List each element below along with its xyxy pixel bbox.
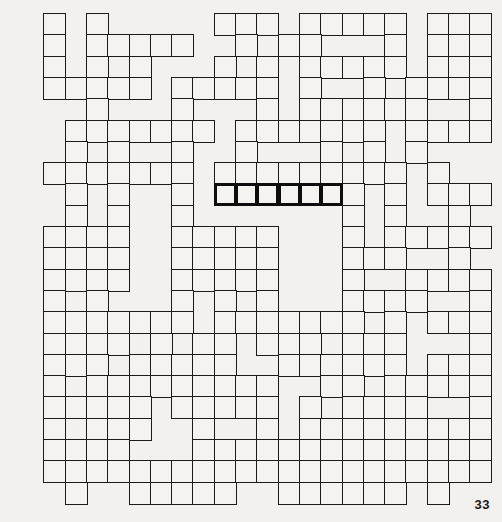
- grid-cell[interactable]: [448, 418, 471, 441]
- grid-cell[interactable]: [86, 162, 109, 185]
- grid-cell[interactable]: [171, 183, 194, 206]
- grid-cell-highlighted[interactable]: [256, 183, 279, 206]
- grid-cell[interactable]: [299, 354, 322, 377]
- grid-cell[interactable]: [86, 311, 109, 334]
- grid-cell[interactable]: [427, 120, 450, 143]
- grid-cell[interactable]: [299, 418, 322, 441]
- grid-cell[interactable]: [86, 226, 109, 249]
- grid-cell[interactable]: [256, 226, 279, 249]
- grid-cell[interactable]: [363, 418, 386, 441]
- grid-cell[interactable]: [171, 77, 194, 100]
- grid-cell[interactable]: [43, 396, 66, 419]
- grid-cell[interactable]: [256, 162, 279, 185]
- grid-cell[interactable]: [384, 460, 407, 483]
- grid-cell[interactable]: [86, 418, 109, 441]
- grid-cell[interactable]: [192, 269, 215, 292]
- grid-cell[interactable]: [342, 418, 365, 441]
- grid-cell[interactable]: [129, 375, 152, 398]
- grid-cell-highlighted[interactable]: [320, 183, 343, 206]
- grid-cell[interactable]: [65, 77, 88, 100]
- grid-cell[interactable]: [278, 162, 301, 185]
- grid-cell[interactable]: [256, 77, 279, 100]
- grid-cell[interactable]: [427, 162, 450, 185]
- grid-cell[interactable]: [469, 439, 492, 462]
- grid-cell[interactable]: [107, 375, 130, 398]
- grid-cell[interactable]: [278, 120, 301, 143]
- grid-cell[interactable]: [363, 354, 386, 377]
- grid-cell[interactable]: [214, 439, 237, 462]
- grid-cell[interactable]: [405, 396, 428, 419]
- grid-cell[interactable]: [192, 226, 215, 249]
- grid-cell[interactable]: [299, 439, 322, 462]
- grid-cell[interactable]: [256, 439, 279, 462]
- grid-cell[interactable]: [299, 120, 322, 143]
- grid-cell[interactable]: [469, 418, 492, 441]
- grid-cell[interactable]: [43, 162, 66, 185]
- grid-cell[interactable]: [299, 56, 322, 79]
- grid-cell[interactable]: [150, 333, 173, 356]
- grid-cell[interactable]: [171, 354, 194, 377]
- grid-cell[interactable]: [427, 354, 450, 377]
- grid-cell[interactable]: [86, 13, 109, 36]
- grid-cell[interactable]: [299, 13, 322, 36]
- grid-cell[interactable]: [107, 77, 130, 100]
- grid-cell[interactable]: [384, 34, 407, 57]
- grid-cell[interactable]: [384, 354, 407, 377]
- grid-cell-highlighted[interactable]: [235, 183, 258, 206]
- grid-cell[interactable]: [256, 418, 279, 441]
- grid-cell[interactable]: [384, 290, 407, 313]
- grid-cell[interactable]: [150, 460, 173, 483]
- grid-cell[interactable]: [342, 439, 365, 462]
- grid-cell[interactable]: [86, 375, 109, 398]
- grid-cell[interactable]: [448, 375, 471, 398]
- grid-cell[interactable]: [43, 333, 66, 356]
- grid-cell[interactable]: [171, 482, 194, 505]
- grid-cell[interactable]: [43, 269, 66, 292]
- grid-cell[interactable]: [448, 247, 471, 270]
- grid-cell[interactable]: [214, 311, 237, 334]
- grid-cell[interactable]: [192, 333, 215, 356]
- grid-cell[interactable]: [469, 183, 492, 206]
- grid-cell[interactable]: [278, 460, 301, 483]
- grid-cell[interactable]: [342, 311, 365, 334]
- grid-cell[interactable]: [384, 98, 407, 121]
- grid-cell[interactable]: [256, 269, 279, 292]
- grid-cell[interactable]: [43, 418, 66, 441]
- grid-cell[interactable]: [256, 333, 279, 356]
- grid-cell[interactable]: [43, 77, 66, 100]
- grid-cell[interactable]: [192, 354, 215, 377]
- grid-cell[interactable]: [171, 162, 194, 185]
- grid-cell[interactable]: [448, 311, 471, 334]
- grid-cell-highlighted[interactable]: [214, 183, 237, 206]
- grid-cell[interactable]: [43, 34, 66, 57]
- grid-cell[interactable]: [107, 439, 130, 462]
- grid-cell[interactable]: [342, 56, 365, 79]
- grid-cell[interactable]: [86, 77, 109, 100]
- grid-cell[interactable]: [384, 439, 407, 462]
- grid-cell[interactable]: [86, 354, 109, 377]
- grid-cell[interactable]: [342, 269, 365, 292]
- grid-cell[interactable]: [192, 418, 215, 441]
- grid-cell[interactable]: [320, 98, 343, 121]
- grid-cell[interactable]: [256, 13, 279, 36]
- grid-cell[interactable]: [469, 375, 492, 398]
- grid-cell[interactable]: [129, 56, 152, 79]
- grid-cell[interactable]: [65, 183, 88, 206]
- grid-cell[interactable]: [427, 77, 450, 100]
- grid-cell[interactable]: [342, 460, 365, 483]
- grid-cell[interactable]: [86, 120, 109, 143]
- grid-cell[interactable]: [256, 396, 279, 419]
- grid-cell[interactable]: [65, 396, 88, 419]
- grid-cell[interactable]: [405, 460, 428, 483]
- grid-cell[interactable]: [405, 375, 428, 398]
- grid-cell[interactable]: [320, 162, 343, 185]
- grid-cell[interactable]: [299, 162, 322, 185]
- grid-cell[interactable]: [214, 482, 237, 505]
- grid-cell[interactable]: [129, 460, 152, 483]
- grid-cell[interactable]: [278, 482, 301, 505]
- grid-cell[interactable]: [107, 269, 130, 292]
- grid-cell[interactable]: [171, 34, 194, 57]
- grid-cell[interactable]: [363, 13, 386, 36]
- grid-cell[interactable]: [342, 247, 365, 270]
- grid-cell[interactable]: [363, 56, 386, 79]
